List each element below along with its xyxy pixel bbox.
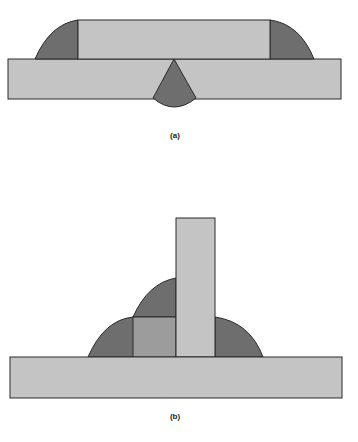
right-fillet-weld-b <box>215 317 263 357</box>
left-fillet-weld-a <box>35 20 78 59</box>
weld-diagram <box>0 0 358 442</box>
right-fillet-weld-a <box>270 20 314 59</box>
upper-fillet-weld-b <box>133 278 176 317</box>
figure-b <box>10 218 342 398</box>
figure-a <box>8 20 341 107</box>
top-plate-a <box>78 20 270 59</box>
backing-block-b <box>133 317 176 357</box>
base-plate-b <box>10 357 342 398</box>
figure-b-label: (b) <box>155 412 195 421</box>
vertical-plate-b <box>176 218 215 357</box>
figure-a-label: (a) <box>155 131 195 140</box>
